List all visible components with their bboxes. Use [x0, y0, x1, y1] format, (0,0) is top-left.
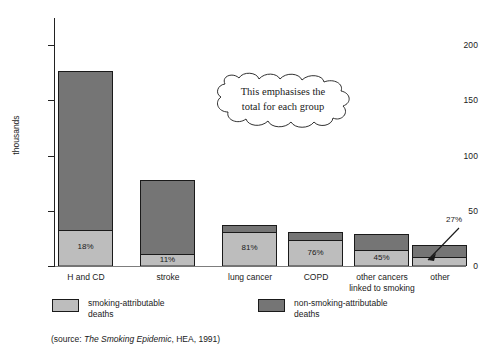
bar-stroke-pct-label: 11% [141, 256, 194, 264]
bar-other-cancers-pct-label: 45% [355, 254, 408, 262]
source-title: The Smoking Epidemic [84, 334, 171, 344]
bar-copd-light-segment: 76% [289, 240, 342, 265]
x-category-label-other-cancers-line2: linked to smoking [349, 283, 415, 293]
x-category-label-other: other [400, 272, 480, 283]
bar-copd-pct-label: 76% [289, 249, 342, 257]
bar-other-cancers-light-segment: 45% [355, 250, 408, 265]
y-tick-100 [48, 156, 55, 157]
y-tick-label-150: 150 [434, 95, 478, 105]
x-category-label-stroke: stroke [128, 272, 208, 283]
legend-label-smoking-attributable: smoking-attributable deaths [88, 298, 165, 319]
bar-lung-cancer-pct-label: 81% [223, 244, 276, 252]
source-note: (source: The Smoking Epidemic, HEA, 1991… [51, 334, 220, 344]
legend-item-non-smoking-attributable: non-smoking-attributable deaths [258, 298, 388, 319]
x-category-label-h-and-cd: H and CD [46, 272, 126, 283]
bar-h-and-cd[interactable]: 18% [58, 71, 113, 266]
bar-stroke-light-segment: 11% [141, 254, 194, 265]
bar-lung-cancer-light-segment: 81% [223, 232, 276, 265]
bar-copd[interactable]: 76% [288, 232, 343, 266]
bar-other-light-segment [413, 257, 466, 265]
bar-other[interactable] [412, 245, 467, 266]
y-tick-0 [48, 266, 55, 267]
legend-swatch-smoking-attributable [52, 299, 79, 312]
bar-h-and-cd-pct-label: 18% [59, 243, 112, 251]
y-tick-label-100: 100 [434, 151, 478, 161]
cloud-callout-line2: total for each group [242, 101, 325, 112]
cloud-callout-line1: This emphasises the [241, 86, 326, 97]
cloud-callout-text: This emphasises the total for each group [221, 84, 345, 114]
bar-other-cancers-linked-to-smoking[interactable]: 45% [354, 234, 409, 266]
source-suffix: , HEA, 1991) [171, 334, 220, 344]
cloud-callout: This emphasises the total for each group [207, 70, 359, 132]
chart-legend: smoking-attributable deaths non-smoking-… [0, 298, 478, 349]
y-axis-title: thousands [11, 95, 21, 175]
y-tick-50 [48, 211, 55, 212]
bar-stroke[interactable]: 11% [140, 180, 195, 266]
source-prefix: (source: [51, 334, 84, 344]
plot-area: 200 150 100 50 0 thousands 18% 11% 81% [0, 0, 478, 290]
y-tick-label-200: 200 [434, 40, 478, 50]
bar-lung-cancer[interactable]: 81% [222, 225, 277, 266]
legend-label-non-smoking-attributable: non-smoking-attributable deaths [294, 298, 388, 319]
legend-item-smoking-attributable: smoking-attributable deaths [52, 298, 165, 319]
legend-swatch-non-smoking-attributable [258, 299, 285, 312]
y-axis-line [54, 18, 55, 267]
y-tick-150 [48, 100, 55, 101]
bar-other-pct-label: 27% [446, 215, 462, 224]
bar-h-and-cd-light-segment: 18% [59, 230, 112, 265]
y-tick-200 [48, 45, 55, 46]
